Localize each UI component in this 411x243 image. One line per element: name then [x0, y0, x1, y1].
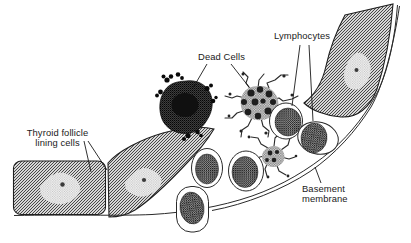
thyroid-follicle-label: Thyroid follicle lining cells: [27, 127, 89, 148]
basement-membrane-pointer: [315, 167, 321, 183]
lymphocyte-5: [177, 187, 209, 233]
lymphocytes-label: Lymphocytes: [274, 30, 330, 41]
svg-text:lining cells: lining cells: [35, 137, 80, 148]
thyroiditis-diagram: Dead Cells Lymphocytes Thyroid follicle …: [0, 0, 411, 243]
basement-membrane-label: Basement membrane: [302, 183, 348, 204]
svg-text:membrane: membrane: [302, 193, 348, 204]
thyroid-follicle-cell-top-right: [304, 4, 393, 117]
lymphocyte-4: [229, 151, 264, 191]
nucleolus-dot: [355, 68, 359, 72]
lymphocyte-3: [192, 149, 223, 188]
figure-canvas: Dead Cells Lymphocytes Thyroid follicle …: [0, 0, 411, 243]
nucleolus-dot: [142, 178, 146, 182]
necrotic-core: [172, 93, 199, 117]
dead-cells-label: Dead Cells: [198, 51, 245, 62]
thyroid-follicle-cell-left: [14, 161, 106, 215]
nucleolus-dot: [60, 182, 64, 186]
lymphocytes-pointer-right: [309, 45, 313, 121]
